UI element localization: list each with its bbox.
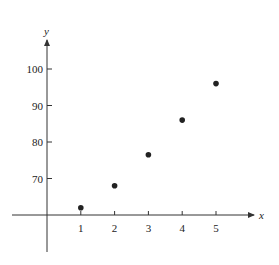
ticks: 12345708090100 bbox=[27, 63, 220, 234]
y-tick-label: 80 bbox=[32, 136, 44, 148]
data-point bbox=[78, 205, 84, 211]
x-tick-label: 1 bbox=[78, 222, 84, 234]
x-tick-label: 5 bbox=[213, 222, 219, 234]
y-tick-label: 90 bbox=[32, 100, 44, 112]
x-axis-label: x bbox=[258, 209, 264, 221]
data-point bbox=[146, 152, 152, 158]
y-axis-label: y bbox=[43, 25, 49, 37]
data-points bbox=[78, 81, 219, 211]
x-tick-label: 4 bbox=[179, 222, 185, 234]
x-tick-label: 2 bbox=[112, 222, 118, 234]
data-point bbox=[213, 81, 219, 87]
y-tick-label: 100 bbox=[27, 63, 44, 75]
data-point bbox=[179, 117, 185, 123]
axes bbox=[12, 40, 254, 252]
scatter-chart: 12345708090100 x y bbox=[0, 0, 279, 265]
y-tick-label: 70 bbox=[32, 173, 44, 185]
data-point bbox=[112, 183, 118, 189]
x-tick-label: 3 bbox=[146, 222, 152, 234]
